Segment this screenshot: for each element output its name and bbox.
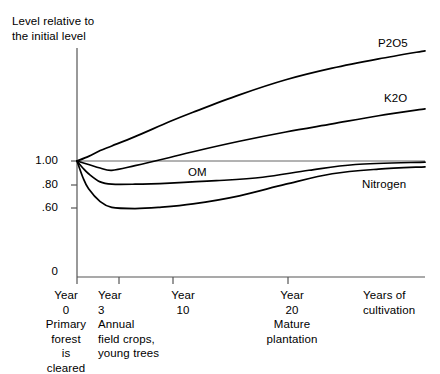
series-label-k2o: K2O (384, 92, 407, 104)
x-tick-label-year-10: Year 10 (153, 288, 213, 317)
series-line-p2o5 (77, 51, 425, 161)
y-tick-label-0.60: .60 (12, 201, 58, 213)
x-tick-label-year-20: Year 20 Mature plantation (254, 288, 330, 346)
series-label-nitrogen: Nitrogen (362, 178, 406, 190)
y-tick-label-0: 0 (12, 265, 58, 277)
x-axis-caption: Years of cultivation (363, 288, 415, 317)
y-tick-label-0.80: .80 (12, 178, 58, 190)
y-tick-label-1.00: 1.00 (12, 154, 58, 166)
series-label-om: OM (188, 166, 207, 178)
chart-container: Level relative to the initial level 1.00… (0, 0, 440, 374)
series-label-p2o5: P2O5 (378, 37, 408, 49)
x-tick-label-year-0: Year 0 Primary forest is cleared (38, 288, 94, 374)
